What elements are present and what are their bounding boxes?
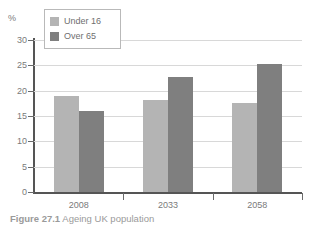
y-axis-tick-mark [28,65,34,66]
y-axis-tick-mark [28,40,34,41]
y-axis-tick-label: 30 [1,36,27,45]
bar-2008-under-16 [54,96,79,192]
y-axis-tick-label: 10 [1,137,27,146]
plot-area [34,40,302,192]
x-axis-tick-label-2008: 2008 [56,200,102,210]
legend-label-under-16: Under 16 [64,17,101,26]
bar-2033-under-16 [143,100,168,192]
y-axis-tick-labels: 051015202530 [0,0,27,226]
figure-caption: Figure 27.1 Ageing UK population [10,213,154,224]
y-axis-tick-mark [28,141,34,142]
y-axis-tick-label: 15 [1,112,27,121]
y-axis-tick-mark [28,192,34,193]
chart-legend: Under 16 Over 65 [44,9,121,49]
legend-label-over-65: Over 65 [64,32,96,41]
x-axis-line [33,192,302,194]
y-axis-tick-label: 0 [1,188,27,197]
legend-item-under-16: Under 16 [50,14,115,29]
y-axis-tick-mark [28,167,34,168]
x-axis-tick-mark [213,193,214,200]
figure-caption-number: Figure 27.1 [10,213,60,224]
bar-2058-under-16 [232,103,257,192]
x-axis-tick-label-2033: 2033 [145,200,191,210]
y-axis-tick-label: 5 [1,163,27,172]
legend-swatch-icon-over-65 [50,32,59,41]
x-axis-tick-mark-end [302,193,303,200]
legend-item-over-65: Over 65 [50,29,115,44]
bar-2058-over-65 [257,64,282,192]
x-axis-tick-label-2058: 2058 [234,200,280,210]
legend-swatch-icon-under-16 [50,17,59,26]
figure-container: % 051015202530 200820332058 Under 16 Ove… [0,0,310,226]
y-axis-tick-mark [28,116,34,117]
y-axis-tick-label: 25 [1,61,27,70]
figure-caption-text: Ageing UK population [62,213,154,224]
bar-2033-over-65 [168,77,193,192]
y-axis-tick-label: 20 [1,87,27,96]
y-axis-tick-mark [28,91,34,92]
bar-2008-over-65 [79,111,104,192]
x-axis-tick-mark [123,193,124,200]
